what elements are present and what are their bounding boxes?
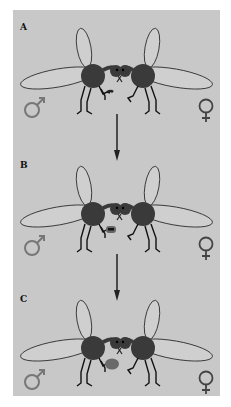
prey-item-a <box>107 91 113 92</box>
female-fly <box>117 27 214 114</box>
flies-scene-c <box>13 282 220 402</box>
female-fly <box>117 165 214 252</box>
gift-ball-c <box>105 359 119 370</box>
male-fly <box>19 27 122 114</box>
male-symbol <box>25 236 44 255</box>
panel-b: B <box>13 148 220 268</box>
male-fly <box>19 165 122 252</box>
flies-scene-b <box>13 148 220 268</box>
diagram-frame: A <box>13 10 220 396</box>
female-fly <box>117 299 214 386</box>
male-symbol <box>25 370 44 389</box>
flies-scene-a <box>13 10 220 130</box>
panel-c: C <box>13 282 220 402</box>
male-fly <box>19 299 122 386</box>
female-symbol <box>200 238 213 261</box>
male-symbol <box>25 98 44 117</box>
panel-a: A <box>13 10 220 130</box>
female-symbol <box>200 372 213 395</box>
female-symbol <box>200 100 213 123</box>
